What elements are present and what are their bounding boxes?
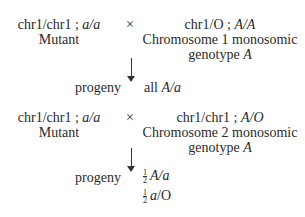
genotype-text: chr1/chr1 ; [176, 110, 241, 125]
denominator: 2 [143, 197, 147, 204]
cross1-parent1-label: Mutant [14, 33, 104, 47]
allele-text: A/A [234, 17, 255, 32]
progeny-text: all [144, 80, 162, 95]
cross1-parent1-genotype: chr1/chr1 ; a/a [14, 18, 104, 32]
cross2-parent2-label-line1: Chromosome 2 monosomic [140, 126, 300, 140]
cross1-progeny-result: all A/a [144, 81, 181, 95]
fraction: 12 [143, 169, 147, 184]
allele-part: a [150, 188, 157, 203]
allele-text: a/a [82, 17, 100, 32]
allele-text: a [150, 188, 157, 203]
cross2-parent2-genotype: chr1/chr1 ; A/O [140, 111, 300, 125]
cross2-parent1-label: Mutant [14, 126, 104, 140]
allele-text: A/a [162, 80, 181, 95]
cross1-parent2-label-line2: genotype A [140, 48, 300, 62]
allele-text: A [243, 47, 252, 62]
down-arrow-icon [126, 148, 138, 172]
down-arrow-icon [126, 58, 138, 82]
cross2-parent1-genotype: chr1/chr1 ; a/a [14, 111, 104, 125]
allele-text: a/a [82, 110, 100, 125]
allele-text: A/a [150, 168, 169, 183]
cross1-progeny-label: progeny [75, 81, 121, 95]
genotype-text: chr1/chr1 ; [18, 17, 83, 32]
cross2-progeny-item: 12A/a [143, 169, 169, 184]
cross2-cross-symbol: × [126, 111, 134, 125]
fraction: 12 [143, 189, 147, 204]
cross1-cross-symbol: × [126, 18, 134, 32]
cross2-progeny-label: progeny [75, 171, 121, 185]
cross2-parent2-label-line2: genotype A [140, 141, 300, 155]
genotype-text: chr1/chr1 ; [18, 110, 83, 125]
allele-text: A [243, 140, 252, 155]
denominator: 2 [143, 177, 147, 184]
label-text: genotype [188, 140, 243, 155]
label-text: genotype [188, 47, 243, 62]
cross1-parent2-genotype: chr1/O ; A/A [140, 18, 300, 32]
cross1-parent2-label-line1: Chromosome 1 monosomic [140, 33, 300, 47]
allele-part: /O [157, 188, 171, 203]
genotype-text: chr1/O ; [185, 17, 235, 32]
cross2-progeny-item: 12a/O [143, 189, 171, 204]
allele-text: A/O [241, 110, 264, 125]
